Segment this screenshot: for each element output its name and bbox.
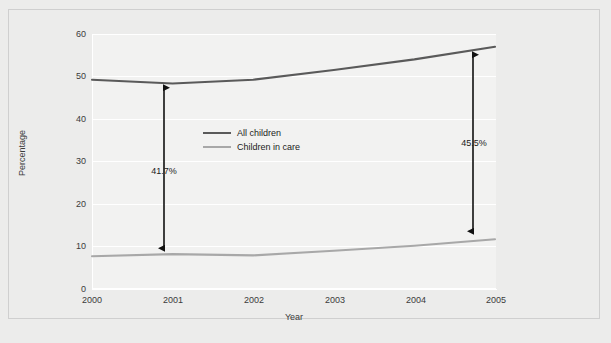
chart-figure: 60 50 40 30 20 10 0 2000 2001 2002 2003 … (0, 0, 611, 343)
legend-label-children-in-care: Children in care (237, 142, 300, 152)
x-tick-2005: 2005 (473, 295, 519, 305)
annotation-label-left: 41.7% (140, 166, 188, 176)
chart-legend: All children Children in care (203, 126, 333, 154)
y-axis-title: Percentage (17, 113, 27, 193)
x-tick-2004: 2004 (393, 295, 439, 305)
x-tick-2001: 2001 (150, 295, 196, 305)
annotation-label-right: 45.5% (450, 138, 498, 148)
legend-label-all-children: All children (237, 128, 281, 138)
legend-swatch-all-children (203, 132, 231, 135)
x-tick-2002: 2002 (231, 295, 277, 305)
legend-swatch-children-in-care (203, 146, 231, 149)
x-tick-2000: 2000 (69, 295, 115, 305)
x-tick-2003: 2003 (312, 295, 358, 305)
x-axis-title: Year (92, 312, 496, 322)
legend-item-all-children: All children (203, 126, 333, 140)
legend-item-children-in-care: Children in care (203, 140, 333, 154)
x-tick-labels: 2000 2001 2002 2003 2004 2005 (0, 0, 611, 343)
